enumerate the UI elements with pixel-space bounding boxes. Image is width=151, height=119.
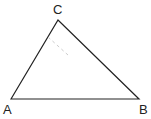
triangle-abc <box>11 20 139 99</box>
vertex-label-b: B <box>139 102 148 117</box>
dashed-auxiliary-line <box>48 37 68 55</box>
vertex-label-a: A <box>3 102 12 117</box>
triangle-diagram: C A B <box>0 0 151 119</box>
vertex-label-c: C <box>53 2 62 17</box>
